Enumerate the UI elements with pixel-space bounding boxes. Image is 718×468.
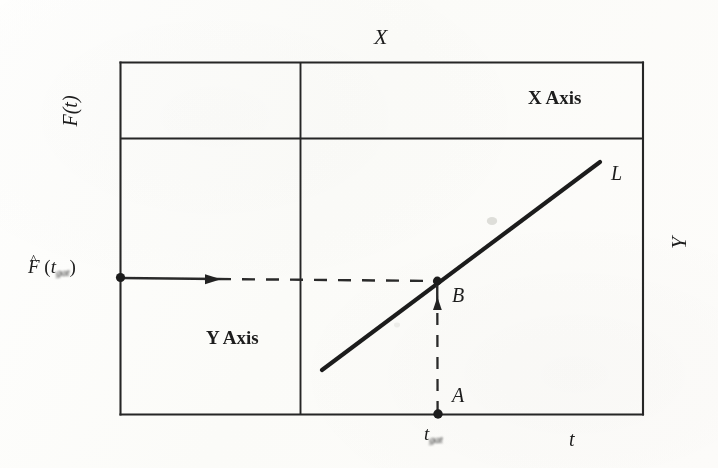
tick-label-x-value: tgat	[424, 424, 443, 445]
line-label-L: L	[611, 163, 622, 183]
figure-page: X Y F(t) t X Axis Y Axis ^ F (tgat) tgat…	[0, 0, 718, 468]
tick-label-x-subscript: gat	[429, 433, 442, 445]
scan-speck	[394, 217, 497, 327]
paren-close: )	[69, 256, 75, 277]
region-label-x-axis: X Axis	[528, 88, 581, 107]
dashed-horizontal-projection	[121, 274, 437, 284]
figure-drawing-canvas	[0, 0, 718, 468]
axis-label-bottom: t	[569, 429, 575, 449]
region-label-y-axis: Y Axis	[206, 328, 259, 347]
marker-point-B	[433, 277, 442, 286]
dashed-vertical-projection	[433, 283, 442, 413]
axis-label-top: X	[374, 26, 387, 48]
point-label-A: A	[452, 385, 464, 405]
data-line-L	[322, 162, 600, 370]
axis-label-right: Y	[668, 232, 690, 254]
plot-frame	[121, 63, 644, 415]
circumflex-accent-icon: ^	[30, 252, 37, 267]
tick-label-y-subscript: gat	[56, 266, 69, 278]
marker-point-A	[433, 409, 442, 418]
paren-open: (	[40, 256, 51, 277]
point-markers	[116, 273, 443, 419]
arrowhead-up-icon	[433, 297, 442, 310]
point-label-B: B	[452, 285, 464, 305]
axis-label-left: F(t)	[60, 84, 80, 138]
arrowhead-right-icon	[205, 274, 221, 284]
f-hat-group: ^ F	[28, 257, 40, 276]
marker-y-tick	[116, 273, 125, 282]
tick-label-y-value: ^ F (tgat)	[28, 257, 76, 278]
